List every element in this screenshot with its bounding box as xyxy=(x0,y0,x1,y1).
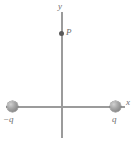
positive-charge-label: q xyxy=(112,115,117,124)
x-axis-line xyxy=(6,106,125,108)
negative-charge-sphere xyxy=(7,101,18,112)
positive-charge-sphere xyxy=(110,101,121,112)
charge-diagram-figure: y x −q q P xyxy=(0,0,136,145)
x-axis-label: x xyxy=(126,98,130,107)
point-p-label: P xyxy=(66,28,72,37)
y-axis-label: y xyxy=(58,2,62,11)
negative-charge-label: −q xyxy=(3,115,14,124)
point-p-marker xyxy=(59,31,64,36)
